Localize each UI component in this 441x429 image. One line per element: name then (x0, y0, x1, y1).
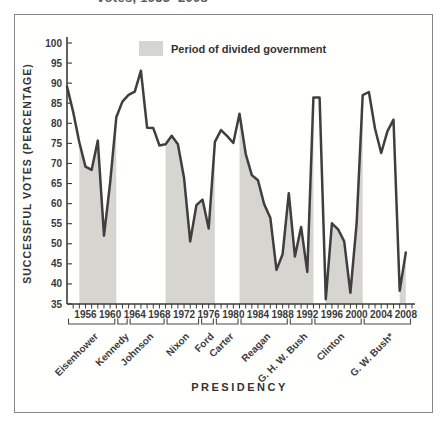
y-tick-label: 70 (51, 158, 63, 169)
x-tick-label: 1984 (247, 309, 270, 320)
cropped-figure-title: votes, 1953–2008 (97, 0, 208, 5)
x-tick-label: 1996 (321, 309, 344, 320)
y-tick-label: 75 (51, 138, 63, 149)
x-tick-label: 1960 (99, 309, 122, 320)
x-tick-label: 1964 (124, 309, 147, 320)
x-axis-title: PRESIDENCY (191, 381, 288, 393)
y-tick-label: 45 (51, 258, 63, 269)
x-tick-label: 2004 (370, 309, 393, 320)
chart-frame: 1009590858075706560555045403519561960196… (14, 14, 433, 413)
president-label: G. W. Bush* (348, 331, 396, 379)
x-tick-label: 1976 (198, 309, 221, 320)
x-tick-label: 1956 (74, 309, 97, 320)
x-tick-label: 1980 (222, 309, 245, 320)
figure-canvas: votes, 1953–2008 10095908580757065605550… (0, 0, 441, 429)
y-tick-label: 55 (51, 218, 63, 229)
legend-swatch (139, 41, 163, 56)
x-tick-label: 1992 (296, 309, 319, 320)
president-label: Clinton (314, 331, 346, 363)
president-label: Nixon (164, 331, 191, 358)
y-tick-label: 35 (51, 299, 63, 310)
chart: 1009590858075706560555045403519561960196… (15, 15, 432, 412)
y-tick-label: 100 (45, 38, 62, 49)
y-tick-label: 95 (51, 58, 63, 69)
y-axis-title: SUCCESSFUL VOTES (PERCENTAGE) (21, 63, 33, 284)
y-tick-label: 65 (51, 178, 63, 189)
divided-government-band (67, 71, 406, 304)
x-tick-label: 1988 (272, 309, 295, 320)
y-tick-label: 40 (51, 278, 63, 289)
y-tick-label: 80 (51, 118, 63, 129)
x-tick-label: 1972 (173, 309, 196, 320)
y-tick-label: 85 (51, 98, 63, 109)
y-tick-label: 50 (51, 238, 63, 249)
president-label: Eisenhower (53, 331, 101, 379)
president-label: Reagan (239, 331, 272, 364)
y-tick-label: 90 (51, 78, 63, 89)
x-tick-label: 2000 (345, 309, 368, 320)
legend-label: Period of divided government (171, 43, 327, 55)
x-tick-label: 1968 (148, 309, 171, 320)
x-tick-label: 2008 (395, 309, 418, 320)
y-tick-label: 60 (51, 198, 63, 209)
